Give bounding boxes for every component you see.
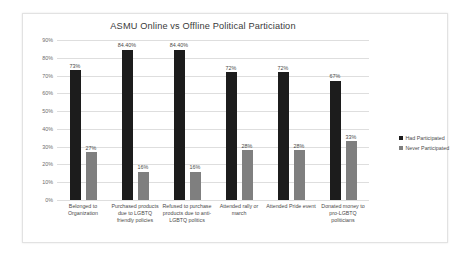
bar-group: 84.40%16%: [109, 40, 161, 200]
bar-value-label: 16%: [190, 164, 201, 170]
bar-never-participated: 33%: [346, 141, 357, 200]
y-axis-tick-label: 60%: [42, 90, 53, 96]
bar-never-participated: 28%: [294, 150, 305, 200]
bar-value-label: 84.40%: [170, 42, 188, 48]
bar-never-participated: 28%: [242, 150, 253, 200]
bar-had-participated: 72%: [226, 72, 237, 200]
bar-value-label: 16%: [138, 164, 149, 170]
legend-item-label: Had Participated: [406, 135, 445, 141]
x-axis-category-label: Refused to purchase products due to anti…: [161, 203, 213, 225]
chart-legend: Had ParticipatedNever Participated: [399, 135, 464, 154]
y-axis-tick-label: 30%: [42, 144, 53, 150]
bar-never-participated: 16%: [138, 172, 149, 200]
legend-swatch-icon: [399, 146, 403, 150]
y-axis-tick-label: 40%: [42, 126, 53, 132]
chart-title: ASMU Online vs Offline Political Partici…: [23, 21, 383, 31]
bar-never-participated: 27%: [86, 152, 97, 200]
bar-value-label: 73%: [70, 63, 81, 69]
plot-area: 73%27%84.40%16%84.40%16%72%28%72%28%67%3…: [57, 40, 369, 200]
x-axis-category-label: Attended rally or march: [213, 203, 265, 217]
y-axis-tick-label: 10%: [42, 179, 53, 185]
bar-had-participated: 72%: [278, 72, 289, 200]
bar-value-label: 33%: [346, 134, 357, 140]
x-axis-category-labels: Belonged to OrganizationPurchased produc…: [57, 203, 369, 253]
bar-group: 67%33%: [317, 40, 369, 200]
y-axis-tick-label: 80%: [42, 55, 53, 61]
bar-had-participated: 84.40%: [174, 50, 185, 200]
x-axis-category-label: Attended Pride event: [265, 203, 317, 210]
legend-item[interactable]: Never Participated: [399, 145, 464, 151]
bar-value-label: 27%: [86, 145, 97, 151]
legend-item[interactable]: Had Participated: [399, 135, 464, 141]
bar-value-label: 67%: [330, 73, 341, 79]
legend-item-label: Never Participated: [406, 145, 450, 151]
bar-never-participated: 16%: [190, 172, 201, 200]
y-axis: 0%10%20%30%40%50%60%70%80%90%: [27, 40, 55, 200]
y-axis-tick-label: 0%: [45, 197, 53, 203]
x-axis-category-label: Purchased products due to LGBTQ friendly…: [109, 203, 161, 225]
bar-value-label: 28%: [294, 143, 305, 149]
x-axis-category-label: Donated money to pro-LGBTQ politicians: [317, 203, 369, 225]
y-axis-tick-label: 70%: [42, 73, 53, 79]
chart-container: ASMU Online vs Offline Political Partici…: [22, 13, 448, 243]
bar-value-label: 72%: [278, 65, 289, 71]
bar-group: 72%28%: [265, 40, 317, 200]
y-axis-tick-label: 20%: [42, 161, 53, 167]
bar-group: 72%28%: [213, 40, 265, 200]
bar-value-label: 28%: [242, 143, 253, 149]
bar-group: 73%27%: [57, 40, 109, 200]
bar-had-participated: 67%: [330, 81, 341, 200]
y-axis-tick-label: 90%: [42, 37, 53, 43]
bar-group: 84.40%16%: [161, 40, 213, 200]
bar-had-participated: 84.40%: [122, 50, 133, 200]
bar-value-label: 72%: [226, 65, 237, 71]
bar-had-participated: 73%: [70, 70, 81, 200]
x-axis-category-label: Belonged to Organization: [57, 203, 109, 217]
legend-swatch-icon: [399, 136, 403, 140]
gridline: [57, 200, 369, 201]
bar-value-label: 84.40%: [118, 42, 136, 48]
y-axis-tick-label: 50%: [42, 108, 53, 114]
